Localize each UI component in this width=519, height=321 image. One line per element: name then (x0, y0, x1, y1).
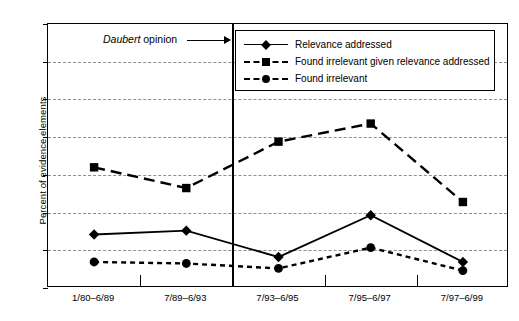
legend-item-label: Relevance addressed (295, 39, 392, 50)
data-point-marker (273, 252, 283, 262)
data-point-marker (274, 264, 283, 273)
data-point-marker (181, 225, 191, 235)
legend-item[interactable]: Found irrelevant (244, 70, 494, 87)
data-point-marker (366, 243, 375, 252)
chart-figure: Percent of evidence elements 01020304050… (0, 0, 519, 321)
data-point-marker (274, 137, 282, 145)
data-point-marker (366, 210, 376, 220)
data-point-marker (182, 184, 190, 192)
data-point-marker (459, 198, 467, 206)
daubert-opinion-annotation: Daubert opinion (103, 33, 231, 45)
legend-circle-marker-icon (244, 73, 288, 85)
annotation-plain-text: opinion (140, 33, 177, 45)
legend-item[interactable]: Relevance addressed (244, 36, 494, 53)
data-point-marker (90, 258, 99, 267)
data-point-marker (182, 259, 191, 268)
legend-diamond-marker-icon (244, 39, 288, 51)
data-point-marker (367, 119, 375, 127)
data-point-marker (89, 229, 99, 239)
y-tick-mark (43, 288, 48, 289)
series-line (94, 124, 463, 202)
legend-item[interactable]: Found irrelevant given relevance address… (244, 53, 494, 70)
annotation-italic-text: Daubert (103, 33, 140, 45)
legend-item-label: Found irrelevant (295, 73, 367, 84)
data-point-marker (458, 257, 468, 267)
right-arrow-icon (187, 36, 231, 45)
x-tick-label: 7/97–6/99 (407, 292, 517, 303)
legend-square-marker-icon (244, 56, 288, 68)
y-axis-title: Percent of evidence elements (37, 31, 48, 291)
data-point-marker (459, 266, 468, 275)
chart-legend: Relevance addressedFound irrelevant give… (235, 30, 495, 91)
legend-item-label: Found irrelevant given relevance address… (295, 56, 490, 67)
data-point-marker (90, 163, 98, 171)
